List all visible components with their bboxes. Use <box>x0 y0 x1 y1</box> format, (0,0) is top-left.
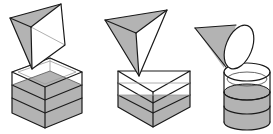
triangular-pyramid <box>105 10 167 76</box>
layered-cube <box>12 58 82 128</box>
square-pyramid <box>10 4 65 69</box>
figure-canvas <box>0 0 273 134</box>
layered-triangular-prism <box>118 71 190 127</box>
panel-3 <box>195 21 270 130</box>
panel-1 <box>10 4 82 128</box>
panel-2 <box>105 10 190 127</box>
layered-cylinder <box>224 63 270 130</box>
cone <box>195 21 260 73</box>
